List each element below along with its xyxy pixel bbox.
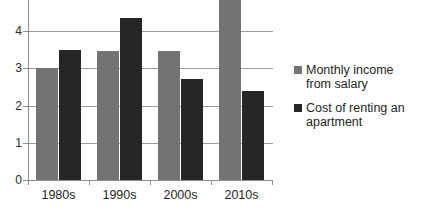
bar-rent [120,18,142,180]
legend-swatch-icon [294,66,302,74]
legend-label: Monthly income from salary [306,63,420,91]
y-axis-labels: 0 1 2 3 4 [0,0,22,181]
chart-legend: Monthly income from salary Cost of renti… [294,63,420,139]
x-axis-tick [211,180,212,185]
bar-income [97,51,119,180]
y-axis-line [28,0,29,181]
bar-rent [181,79,203,180]
bar-income [219,0,241,180]
y-axis-tick-label: 1 [2,137,22,149]
legend-item-rent: Cost of renting an apartment [294,101,420,129]
x-axis-tick [272,180,273,185]
bar-income [36,68,58,180]
bar-group [36,0,88,180]
x-axis-tick [89,180,90,185]
bar-group [97,0,149,180]
x-axis-category-label: 2000s [150,188,211,202]
legend-swatch-icon [294,104,302,112]
legend-item-income: Monthly income from salary [294,63,420,91]
bar-rent [242,91,264,180]
y-axis-tick-label: 4 [2,25,22,37]
x-axis-tick [28,180,29,185]
x-axis-category-label: 1980s [28,188,89,202]
bar-income [158,51,180,180]
x-axis-category-label: 2010s [211,188,272,202]
bar-group [219,0,271,180]
y-axis-tick-label: 0 [2,174,22,186]
bars-layer [28,0,273,181]
bar-rent [59,50,81,180]
y-axis-tick-label: 2 [2,100,22,112]
bar-group [158,0,210,180]
x-axis-category-label: 1990s [89,188,150,202]
legend-label: Cost of renting an apartment [306,101,420,129]
x-axis-tick [150,180,151,185]
bar-chart: 0 1 2 3 4 [0,0,422,213]
y-axis-tick-label: 3 [2,62,22,74]
